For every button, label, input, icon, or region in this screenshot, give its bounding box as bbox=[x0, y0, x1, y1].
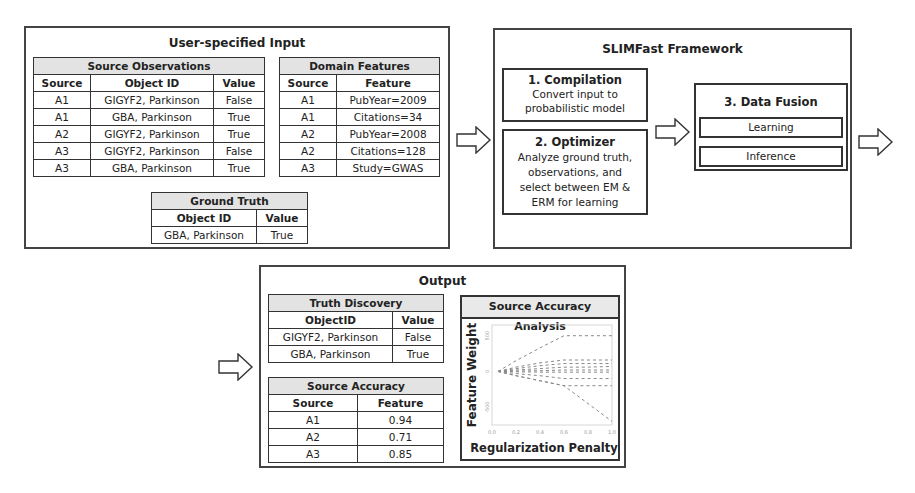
table-row: A1PubYear=2009 bbox=[280, 92, 440, 109]
cell: True bbox=[257, 227, 308, 244]
cell: A1 bbox=[269, 412, 358, 429]
cell: True bbox=[214, 160, 265, 177]
cell: A1 bbox=[34, 109, 91, 126]
cell: A3 bbox=[280, 160, 337, 177]
cell: GBA, Parkinson bbox=[269, 346, 393, 363]
optimizer-text: ERM for learning bbox=[504, 195, 646, 210]
cell: A2 bbox=[280, 126, 337, 143]
table-caption: Truth Discovery bbox=[269, 295, 444, 312]
column-header: Value bbox=[257, 210, 308, 227]
compilation-step: 1. Compilation Convert input to probabil… bbox=[502, 68, 648, 122]
table-row: GIGYF2, ParkinsonFalse bbox=[269, 329, 444, 346]
table-row: A3Study=GWAS bbox=[280, 160, 440, 177]
table-row: A1GBA, ParkinsonTrue bbox=[34, 109, 265, 126]
svg-text:0.2: 0.2 bbox=[512, 429, 520, 435]
column-header: Object ID bbox=[152, 210, 257, 227]
inference-item: Inference bbox=[699, 146, 843, 167]
svg-text:0: 0 bbox=[484, 370, 490, 373]
svg-text:Regularization Penalty: Regularization Penalty bbox=[470, 441, 618, 455]
user-input-title: User-specified Input bbox=[26, 36, 448, 50]
compilation-heading: 1. Compilation bbox=[504, 73, 646, 87]
table-row: A20.71 bbox=[269, 429, 444, 446]
cell: False bbox=[214, 143, 265, 160]
learning-item: Learning bbox=[699, 117, 843, 138]
right-arrow-icon bbox=[456, 126, 492, 154]
cell: GBA, Parkinson bbox=[91, 109, 214, 126]
cell: Citations=34 bbox=[337, 109, 440, 126]
cell: True bbox=[214, 126, 265, 143]
right-arrow-icon bbox=[655, 118, 691, 146]
optimizer-step: 2. Optimizer Analyze ground truth, obser… bbox=[502, 129, 648, 215]
column-header: Source bbox=[280, 75, 337, 92]
table-row: A1GIGYF2, ParkinsonFalse bbox=[34, 92, 265, 109]
cell: GIGYF2, Parkinson bbox=[91, 92, 214, 109]
column-header: ObjectID bbox=[269, 312, 393, 329]
truth-discovery-table: Truth Discovery ObjectID Value GIGYF2, P… bbox=[268, 294, 444, 363]
table-row: A3GIGYF2, ParkinsonFalse bbox=[34, 143, 265, 160]
cell: True bbox=[214, 109, 265, 126]
framework-title: SLIMFast Framework bbox=[495, 42, 850, 56]
cell: A2 bbox=[34, 126, 91, 143]
table-row: A1Citations=34 bbox=[280, 109, 440, 126]
optimizer-text: observations, and bbox=[504, 165, 646, 180]
table-row: A30.85 bbox=[269, 446, 444, 463]
table-row: A2Citations=128 bbox=[280, 143, 440, 160]
table-row: A2PubYear=2008 bbox=[280, 126, 440, 143]
svg-text:-500: -500 bbox=[484, 401, 490, 412]
cell: A2 bbox=[280, 143, 337, 160]
cell: GIGYF2, Parkinson bbox=[269, 329, 393, 346]
column-header: Source bbox=[34, 75, 91, 92]
right-arrow-icon bbox=[218, 353, 254, 381]
svg-text:0.0: 0.0 bbox=[488, 429, 496, 435]
table-row: GBA, ParkinsonTrue bbox=[152, 227, 308, 244]
cell: PubYear=2008 bbox=[337, 126, 440, 143]
source-accuracy-table: Source Accuracy Source Feature A10.94 A2… bbox=[268, 377, 444, 463]
cell: False bbox=[393, 329, 444, 346]
domain-features-table: Domain Features Source Feature A1PubYear… bbox=[279, 57, 440, 177]
column-header: Object ID bbox=[91, 75, 214, 92]
cell: True bbox=[393, 346, 444, 363]
optimizer-heading: 2. Optimizer bbox=[504, 135, 646, 150]
compilation-text: probabilistic model bbox=[504, 101, 646, 115]
cell: 0.85 bbox=[358, 446, 444, 463]
optimizer-text: Analyze ground truth, bbox=[504, 150, 646, 165]
cell: A2 bbox=[269, 429, 358, 446]
data-fusion-heading: 3. Data Fusion bbox=[696, 95, 846, 109]
output-panel: Output Truth Discovery ObjectID Value GI… bbox=[259, 265, 626, 468]
data-fusion-step: 3. Data Fusion Learning Inference bbox=[694, 83, 848, 171]
user-input-panel: User-specified Input Source Observations… bbox=[24, 26, 450, 249]
svg-text:500: 500 bbox=[484, 331, 490, 341]
table-row: A2GIGYF2, ParkinsonTrue bbox=[34, 126, 265, 143]
ground-truth-table: Ground Truth Object ID Value GBA, Parkin… bbox=[151, 192, 308, 244]
column-header: Feature bbox=[358, 395, 444, 412]
table-caption: Domain Features bbox=[280, 58, 440, 75]
optimizer-text: select between EM & bbox=[504, 180, 646, 195]
cell: Citations=128 bbox=[337, 143, 440, 160]
compilation-text: Convert input to bbox=[504, 87, 646, 101]
cell: GBA, Parkinson bbox=[152, 227, 257, 244]
table-caption: Source Accuracy bbox=[269, 378, 444, 395]
source-accuracy-analysis-panel: Source Accuracy Analysis 0.00.20.40.60.8… bbox=[460, 295, 620, 461]
cell: A3 bbox=[34, 143, 91, 160]
table-caption: Source Observations bbox=[34, 58, 265, 75]
cell: PubYear=2009 bbox=[337, 92, 440, 109]
svg-text:0.8: 0.8 bbox=[584, 429, 592, 435]
cell: A1 bbox=[280, 92, 337, 109]
slimfast-framework-panel: SLIMFast Framework 1. Compilation Conver… bbox=[493, 28, 852, 249]
table-row: A3GBA, ParkinsonTrue bbox=[34, 160, 265, 177]
cell: 0.71 bbox=[358, 429, 444, 446]
cell: A1 bbox=[34, 92, 91, 109]
cell: A3 bbox=[34, 160, 91, 177]
regularization-path-chart: 0.00.20.40.60.81.0-5000500Feature Weight… bbox=[462, 319, 618, 461]
right-arrow-icon bbox=[858, 128, 894, 156]
table-row: A10.94 bbox=[269, 412, 444, 429]
cell: A3 bbox=[269, 446, 358, 463]
column-header: Value bbox=[214, 75, 265, 92]
cell: GBA, Parkinson bbox=[91, 160, 214, 177]
column-header: Value bbox=[393, 312, 444, 329]
column-header: Source bbox=[269, 395, 358, 412]
output-title: Output bbox=[261, 274, 624, 288]
cell: Study=GWAS bbox=[337, 160, 440, 177]
cell: GIGYF2, Parkinson bbox=[91, 126, 214, 143]
svg-text:0.4: 0.4 bbox=[536, 429, 544, 435]
